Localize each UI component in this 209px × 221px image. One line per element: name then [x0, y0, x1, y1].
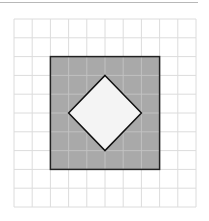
geometry-figure: [0, 0, 209, 221]
